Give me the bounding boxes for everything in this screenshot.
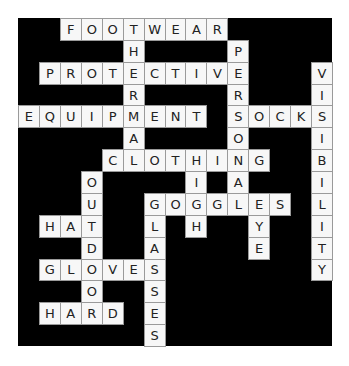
- crossword-cell[interactable]: R: [60, 62, 82, 85]
- crossword-cell[interactable]: R: [227, 84, 249, 107]
- crossword-cell[interactable]: I: [311, 127, 333, 150]
- crossword-cell[interactable]: R: [81, 302, 103, 325]
- crossword-cell[interactable]: C: [269, 105, 291, 128]
- crossword-cell[interactable]: S: [144, 324, 166, 347]
- crossword-cell[interactable]: G: [248, 149, 270, 172]
- crossword-cell[interactable]: V: [311, 62, 333, 85]
- crossword-cell[interactable]: I: [311, 171, 333, 194]
- crossword-cell[interactable]: Q: [39, 105, 61, 128]
- crossword-cell[interactable]: H: [185, 215, 207, 238]
- crossword-cell[interactable]: S: [144, 280, 166, 303]
- crossword-cell[interactable]: I: [311, 215, 333, 238]
- crossword-cell[interactable]: L: [227, 193, 249, 216]
- crossword-cell[interactable]: E: [18, 105, 40, 128]
- crossword-cell[interactable]: O: [165, 193, 187, 216]
- crossword-cell[interactable]: N: [165, 105, 187, 128]
- crossword-cell[interactable]: I: [206, 149, 228, 172]
- crossword-cell[interactable]: O: [81, 171, 103, 194]
- crossword-cell[interactable]: L: [144, 215, 166, 238]
- crossword-cell[interactable]: A: [60, 302, 82, 325]
- crossword-cell[interactable]: A: [144, 237, 166, 260]
- crossword-cell[interactable]: P: [102, 105, 124, 128]
- crossword-cell[interactable]: O: [248, 105, 270, 128]
- crossword-cell[interactable]: T: [123, 18, 145, 41]
- crossword-cell[interactable]: T: [165, 149, 187, 172]
- crossword-cell[interactable]: O: [81, 62, 103, 85]
- crossword-cell[interactable]: T: [185, 105, 207, 128]
- crossword-cell[interactable]: C: [144, 62, 166, 85]
- crossword-cell[interactable]: O: [81, 18, 103, 41]
- crossword-cell[interactable]: O: [81, 259, 103, 282]
- crossword-cell[interactable]: L: [311, 193, 333, 216]
- crossword-cell[interactable]: F: [60, 18, 82, 41]
- crossword-cell[interactable]: U: [60, 105, 82, 128]
- crossword-cell[interactable]: R: [206, 18, 228, 41]
- crossword-cell[interactable]: H: [39, 215, 61, 238]
- crossword-cell[interactable]: S: [311, 105, 333, 128]
- crossword-cell[interactable]: I: [185, 62, 207, 85]
- crossword-cell[interactable]: E: [144, 105, 166, 128]
- crossword-cell[interactable]: I: [311, 84, 333, 107]
- crossword-cell[interactable]: T: [311, 237, 333, 260]
- crossword-cell[interactable]: E: [165, 18, 187, 41]
- crossword-cell[interactable]: E: [123, 259, 145, 282]
- crossword-cell[interactable]: E: [248, 193, 270, 216]
- crossword-cell[interactable]: S: [269, 193, 291, 216]
- crossword-cell[interactable]: O: [102, 18, 124, 41]
- crossword-cell[interactable]: E: [248, 237, 270, 260]
- crossword-cell[interactable]: S: [227, 105, 249, 128]
- crossword-cell[interactable]: E: [144, 302, 166, 325]
- crossword-cell[interactable]: E: [227, 62, 249, 85]
- crossword-cell[interactable]: N: [227, 149, 249, 172]
- crossword-cell[interactable]: H: [185, 149, 207, 172]
- crossword-cell[interactable]: G: [144, 193, 166, 216]
- crossword-cell[interactable]: Y: [248, 215, 270, 238]
- crossword-cell[interactable]: C: [102, 149, 124, 172]
- crossword-cell[interactable]: R: [123, 84, 145, 107]
- crossword-cell[interactable]: T: [81, 215, 103, 238]
- crossword-board: FOOTWEARPROTECTIVEEQUIPMENTSOCKSCLOTHING…: [18, 18, 332, 346]
- crossword-cell[interactable]: G: [206, 193, 228, 216]
- crossword-cell[interactable]: H: [39, 302, 61, 325]
- crossword-cell[interactable]: I: [81, 105, 103, 128]
- crossword-cell[interactable]: O: [227, 127, 249, 150]
- crossword-cell[interactable]: W: [144, 18, 166, 41]
- crossword-cell[interactable]: T: [102, 62, 124, 85]
- crossword-cell[interactable]: L: [60, 259, 82, 282]
- crossword-cell[interactable]: A: [227, 171, 249, 194]
- crossword-cell[interactable]: Y: [311, 259, 333, 282]
- crossword-cell[interactable]: S: [144, 259, 166, 282]
- crossword-cell[interactable]: T: [165, 62, 187, 85]
- crossword-cell[interactable]: O: [81, 280, 103, 303]
- crossword-cell[interactable]: G: [185, 193, 207, 216]
- crossword-cell[interactable]: K: [290, 105, 312, 128]
- crossword-cell[interactable]: P: [39, 62, 61, 85]
- crossword-cell[interactable]: D: [81, 237, 103, 260]
- crossword-cell[interactable]: D: [102, 302, 124, 325]
- crossword-cell[interactable]: H: [123, 40, 145, 63]
- crossword-cell[interactable]: E: [123, 62, 145, 85]
- crossword-cell[interactable]: P: [227, 40, 249, 63]
- crossword-cell[interactable]: G: [39, 259, 61, 282]
- crossword-cell[interactable]: M: [123, 105, 145, 128]
- crossword-cell[interactable]: O: [144, 149, 166, 172]
- crossword-cell[interactable]: V: [102, 259, 124, 282]
- crossword-cell[interactable]: U: [81, 193, 103, 216]
- crossword-cell[interactable]: L: [123, 149, 145, 172]
- crossword-cell[interactable]: A: [60, 215, 82, 238]
- crossword-cell[interactable]: A: [185, 18, 207, 41]
- crossword-cell[interactable]: A: [123, 127, 145, 150]
- crossword-cell[interactable]: V: [206, 62, 228, 85]
- crossword-cell[interactable]: I: [185, 171, 207, 194]
- crossword-cell[interactable]: B: [311, 149, 333, 172]
